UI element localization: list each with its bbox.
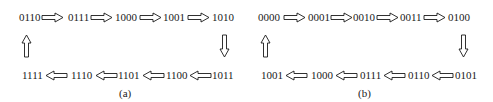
node: 0110 [19, 11, 41, 23]
left-arrow-icon [95, 70, 118, 81]
node: 1001 [163, 11, 185, 23]
down-arrow-icon [219, 34, 230, 58]
left-arrow-icon [45, 70, 68, 81]
node: 0110 [408, 69, 430, 81]
right-arrow-icon [187, 12, 210, 23]
left-arrow-icon [189, 70, 212, 81]
node: 0101 [455, 69, 477, 81]
up-arrow-icon [260, 34, 271, 58]
node: 1010 [212, 11, 234, 23]
node: 0100 [448, 11, 470, 23]
node: 1000 [115, 11, 137, 23]
node: 1000 [311, 69, 333, 81]
node: 1111 [22, 69, 43, 81]
right-arrow-icon [376, 12, 399, 23]
node: 0000 [258, 11, 280, 23]
left-arrow-icon [285, 70, 308, 81]
right-arrow-icon [41, 12, 64, 23]
node: 0111 [68, 11, 89, 23]
left-arrow-icon [383, 70, 406, 81]
node: 1100 [166, 69, 188, 81]
node: 0010 [353, 11, 375, 23]
node: 1001 [261, 69, 283, 81]
panel-label: (b) [358, 87, 371, 99]
down-arrow-icon [458, 34, 469, 58]
node: 1110 [71, 69, 92, 81]
up-arrow-icon [21, 34, 32, 58]
panel-label: (a) [119, 87, 131, 99]
node: 1011 [212, 69, 234, 81]
node: 1101 [118, 69, 140, 81]
right-arrow-icon [139, 12, 162, 23]
left-arrow-icon [431, 70, 454, 81]
node: 0111 [360, 69, 381, 81]
left-arrow-icon [335, 70, 358, 81]
right-arrow-icon [90, 12, 113, 23]
right-arrow-icon [283, 12, 306, 23]
node: 0011 [400, 11, 422, 23]
left-arrow-icon [142, 70, 165, 81]
node: 0001 [308, 11, 330, 23]
right-arrow-icon [330, 12, 353, 23]
right-arrow-icon [423, 12, 446, 23]
